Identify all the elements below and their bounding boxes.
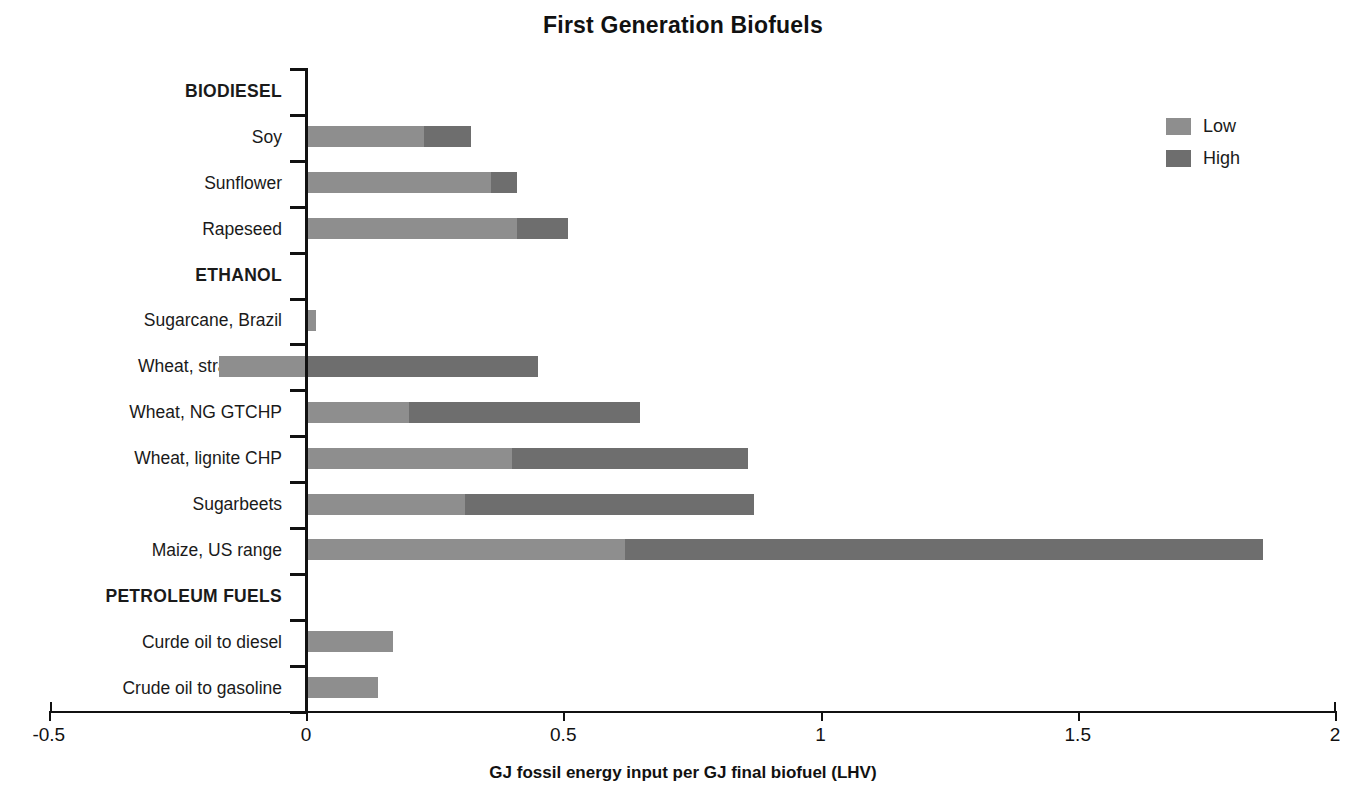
bar-segment-low <box>306 631 393 652</box>
y-axis-group-header: ETHANOL <box>195 264 282 285</box>
bar-segment-high <box>512 448 749 469</box>
y-axis-group-header: BIODIESEL <box>185 80 282 101</box>
y-axis-category-label: Curde oil to diesel <box>142 631 282 652</box>
y-axis-tick <box>290 160 306 163</box>
y-axis-category-label: Crude oil to gasoline <box>122 677 282 698</box>
bar-segment-low <box>306 677 378 698</box>
y-axis-line <box>305 68 308 712</box>
x-axis-tick-label: 0 <box>301 724 312 746</box>
x-axis-title: GJ fossil energy input per GJ final biof… <box>0 763 1366 783</box>
y-axis-tick <box>290 573 306 576</box>
y-axis-category-label: Sunflower <box>204 172 282 193</box>
bar-segment-low <box>306 448 512 469</box>
bar-segment-low <box>306 172 491 193</box>
y-axis-tick <box>290 206 306 209</box>
x-axis-tick-label: -0.5 <box>32 724 65 746</box>
y-axis-category-label: Sugarcane, Brazil <box>144 310 282 331</box>
legend-swatch-low-icon <box>1166 118 1191 135</box>
x-axis-tick <box>563 711 565 721</box>
x-axis-tick <box>1335 711 1337 721</box>
y-axis-category-label: Rapeseed <box>202 218 282 239</box>
legend-label-low: Low <box>1203 116 1236 137</box>
x-axis-tick <box>306 711 308 721</box>
y-axis-tick <box>290 665 306 668</box>
y-axis-category-label: Maize, US range <box>152 539 282 560</box>
plot-area: BIODIESELSoySunflowerRapeseedETHANOLSuga… <box>0 0 1366 787</box>
y-axis-tick <box>290 389 306 392</box>
bar-segment-low <box>306 494 465 515</box>
x-axis-tick <box>49 711 51 721</box>
bar-segment-low <box>306 402 409 423</box>
bar-segment-high <box>491 172 517 193</box>
y-axis-tick <box>290 343 306 346</box>
y-axis-tick <box>290 527 306 530</box>
bar-segment-low <box>306 539 625 560</box>
x-axis-tick-label: 2 <box>1330 724 1341 746</box>
chart-figure: First Generation Biofuels BIODIESELSoySu… <box>0 0 1366 787</box>
chart-legend: Low High <box>1166 110 1240 174</box>
y-axis-category-label: Sugarbeets <box>192 494 282 515</box>
x-axis-tick-label: 0.5 <box>550 724 576 746</box>
x-axis-line <box>50 711 1336 713</box>
y-axis-category-label: Wheat, lignite CHP <box>134 448 282 469</box>
bar-segment-low <box>306 218 517 239</box>
x-axis-tick <box>821 711 823 721</box>
legend-swatch-high-icon <box>1166 150 1191 167</box>
x-axis-tick-label: 1.5 <box>1065 724 1091 746</box>
x-axis-tick <box>1078 711 1080 721</box>
bar-segment-low <box>219 356 306 377</box>
x-axis-tick-label: 1 <box>815 724 826 746</box>
bar-segment-high <box>465 494 753 515</box>
y-axis-tick <box>290 298 306 301</box>
bar-segment-high <box>625 539 1263 560</box>
bar-segment-high <box>517 218 568 239</box>
bar-segment-high <box>306 356 538 377</box>
bar-segment-low <box>306 126 424 147</box>
legend-label-high: High <box>1203 148 1240 169</box>
y-axis-category-label: Wheat, NG GTCHP <box>129 402 282 423</box>
y-axis-tick <box>290 481 306 484</box>
legend-item-low: Low <box>1166 110 1240 142</box>
y-axis-tick <box>290 68 306 71</box>
y-axis-category-label: Soy <box>252 126 282 147</box>
bar-segment-high <box>424 126 470 147</box>
legend-item-high: High <box>1166 142 1240 174</box>
bar-segment-high <box>409 402 641 423</box>
y-axis-tick <box>290 619 306 622</box>
y-axis-group-header: PETROLEUM FUELS <box>105 585 282 606</box>
y-axis-tick <box>290 114 306 117</box>
y-axis-tick <box>290 435 306 438</box>
y-axis-tick <box>290 252 306 255</box>
